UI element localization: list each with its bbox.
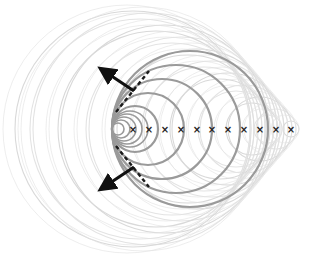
source-position-marker-icon: × (129, 124, 137, 135)
source-position-marker-icon: × (161, 124, 169, 135)
source-position-marker-icon: × (272, 124, 280, 135)
source-position-marker-icon: × (208, 124, 216, 135)
source-position-marker-icon: × (224, 124, 232, 135)
source-position-marker-icon: × (287, 124, 295, 135)
source-position-marker-icon: × (145, 124, 153, 135)
diagram-canvas: ××××××××××× (0, 0, 309, 258)
source-position-marker-icon: × (193, 124, 201, 135)
source-position-marker-icon: × (240, 124, 248, 135)
shock-wave-diagram: ××××××××××× (0, 0, 309, 258)
source-position-marker-icon: × (256, 124, 264, 135)
source-position-marker-icon: × (177, 124, 185, 135)
